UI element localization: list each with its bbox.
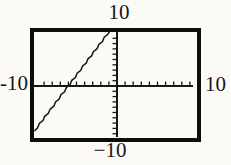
window-ymax-label: 10 xyxy=(109,1,130,23)
graph-line xyxy=(34,30,110,131)
calculator-window-figure: 10 −10 -10 10 xyxy=(0,0,231,165)
window-ymin-label: −10 xyxy=(94,139,127,161)
window-xmin-label: -10 xyxy=(0,72,28,94)
window-xmax-label: 10 xyxy=(205,73,226,95)
